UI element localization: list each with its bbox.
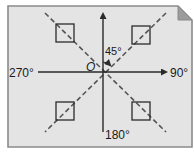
origin-label: O bbox=[86, 60, 95, 74]
right-label-90: 90° bbox=[170, 66, 188, 80]
left-label-270: 270° bbox=[9, 66, 34, 80]
bottom-label-180: 180° bbox=[105, 128, 130, 142]
paper-sheet bbox=[8, 6, 192, 147]
folded-corner bbox=[178, 6, 192, 20]
angle-label: 45° bbox=[105, 45, 122, 57]
rotation-diagram: 45° O 270° 90° 180° bbox=[0, 0, 194, 155]
